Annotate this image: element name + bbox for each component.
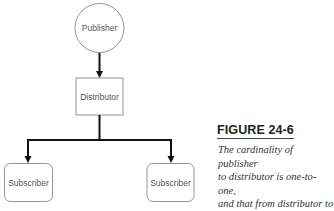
publisher-node: Publisher: [75, 4, 124, 53]
subscriber-right-label: Subscriber: [150, 178, 191, 188]
arrowhead-icon: [25, 156, 32, 163]
figure-description: The cardinality of publisher to distribu…: [218, 143, 334, 211]
pub-sub-diagram: Publisher Distributor Subscriber Subscri…: [0, 0, 215, 211]
edge-distributor-subscribers: [25, 115, 175, 163]
publisher-label: Publisher: [82, 23, 118, 33]
distributor-node: Distributor: [76, 78, 123, 115]
edge-publisher-distributor: [96, 53, 103, 78]
distributor-label: Distributor: [80, 92, 119, 102]
arrowhead-icon: [168, 156, 175, 163]
subscriber-right-node: Subscriber: [147, 164, 194, 202]
subscriber-left-label: Subscriber: [8, 178, 49, 188]
figure-title: FIGURE 24-6: [217, 123, 294, 139]
subscriber-left-node: Subscriber: [5, 164, 53, 202]
arrowhead-icon: [96, 71, 103, 78]
figure-caption: FIGURE 24-6 The cardinality of publisher…: [218, 120, 334, 211]
